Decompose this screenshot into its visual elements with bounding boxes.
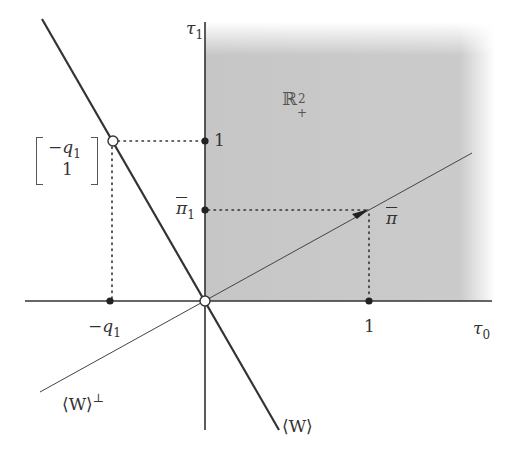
- y-tick-one-label: 1: [214, 132, 225, 149]
- point-y-one: [201, 137, 208, 144]
- positive-orthant-region: [205, 22, 495, 301]
- y-tick-pi1-label: π1: [176, 200, 195, 221]
- subscript: 1: [195, 28, 203, 42]
- x-axis-label: τ0: [473, 320, 490, 341]
- subscript: 0: [482, 328, 490, 342]
- vector-neg-q1-one-label: −q1 1: [36, 137, 98, 185]
- subscript: +: [297, 107, 307, 119]
- subscript: 1: [73, 147, 81, 161]
- subscript: 1: [187, 208, 195, 222]
- point-y-pi1: [201, 206, 208, 213]
- q-symbol: q: [62, 137, 73, 157]
- superscript: 2: [298, 93, 306, 105]
- tau-symbol: τ: [473, 318, 482, 338]
- x-tick-one-label: 1: [364, 318, 375, 335]
- w-perp-label: ⟨W⟩⊥: [62, 392, 104, 413]
- vector-top-entry: −q1: [48, 139, 81, 160]
- x-tick-neg-q1-label: −q1: [88, 318, 121, 339]
- diagram-canvas: [0, 0, 512, 456]
- point-vector-neg-q1-one: [108, 136, 118, 146]
- vector-bottom-entry: 1: [62, 161, 73, 178]
- w-subspace-symbol: ⟨W⟩: [62, 394, 93, 414]
- y-axis-label: τ1: [186, 20, 203, 41]
- left-bracket: [36, 137, 43, 185]
- tau-symbol: τ: [186, 18, 195, 38]
- region-label: ℝ2+: [282, 90, 307, 108]
- point-x-neg-q1: [106, 297, 113, 304]
- pi-bar-symbol: π: [176, 198, 187, 218]
- reals-symbol: ℝ: [282, 88, 297, 109]
- perp-superscript: ⊥: [93, 391, 104, 405]
- pi-bar-label: π: [386, 210, 397, 227]
- subscript: 1: [113, 326, 121, 340]
- point-x-one: [365, 297, 372, 304]
- q-symbol: q: [102, 316, 113, 336]
- pi-bar-symbol: π: [386, 208, 397, 228]
- minus-sign: −: [48, 137, 62, 157]
- point-origin: [200, 296, 210, 306]
- w-label: ⟨W⟩: [282, 418, 313, 435]
- right-bracket: [91, 137, 98, 185]
- minus-sign: −: [88, 316, 102, 336]
